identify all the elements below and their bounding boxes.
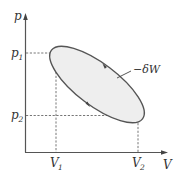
y-axis-label: p [14,9,22,23]
work-label: −δW [133,63,162,76]
y-axis-arrow-icon [23,13,28,20]
v2-label: V 2 [132,156,145,172]
svg-text:1: 1 [58,163,63,172]
x-axis-arrow-icon [161,150,168,155]
svg-text:2: 2 [18,115,24,124]
p1-label: p 1 [11,46,23,62]
x-axis-label: V [163,158,173,172]
svg-text:2: 2 [139,163,145,172]
p2-label: p 2 [11,108,24,124]
v1-label: V 1 [50,156,63,172]
svg-text:1: 1 [19,53,24,62]
pv-diagram: −δW p V p 1 p 2 V 1 V 2 [0,0,177,175]
